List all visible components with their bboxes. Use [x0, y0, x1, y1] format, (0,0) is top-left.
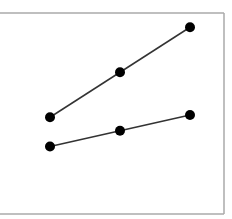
- data-point-marker: [115, 126, 125, 136]
- data-point-marker: [185, 110, 195, 120]
- line-chart: [0, 0, 232, 219]
- data-point-marker: [45, 112, 55, 122]
- series-upper: [45, 22, 195, 122]
- series-lower: [45, 110, 195, 152]
- data-point-marker: [45, 142, 55, 152]
- series-layer: [45, 22, 195, 151]
- data-point-marker: [115, 67, 125, 77]
- data-point-marker: [185, 22, 195, 32]
